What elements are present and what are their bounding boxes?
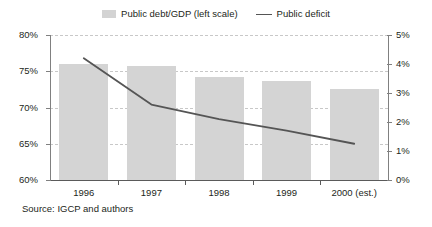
gridline	[50, 35, 388, 36]
x-axis-tick-label: 1996	[73, 188, 94, 198]
y-axis-right-tick-label: 3%	[396, 88, 410, 98]
y-axis-left-tick	[46, 108, 51, 109]
y-axis-left-tick-label: 80%	[19, 30, 44, 40]
x-axis-tick-label: 1999	[276, 188, 297, 198]
y-axis-right-line	[388, 35, 389, 181]
y-axis-right-tick-label: 0%	[396, 175, 410, 185]
legend-label-public-deficit: Public deficit	[277, 9, 330, 19]
x-axis-tick	[185, 180, 186, 185]
y-axis-left-tick	[46, 144, 51, 145]
y-axis-right-tick	[387, 151, 392, 152]
x-axis-line	[50, 180, 389, 181]
y-axis-right-tick-label: 1%	[396, 146, 410, 156]
y-axis-left-tick-label: 70%	[19, 103, 44, 113]
bar	[262, 81, 311, 180]
bar-swatch-icon	[102, 10, 116, 18]
x-axis-tick	[320, 180, 321, 185]
source-note: Source: IGCP and authors	[22, 204, 133, 214]
y-axis-right-tick	[387, 180, 392, 181]
x-axis-tick-label: 2000 (est.)	[331, 188, 376, 198]
y-axis-left-tick-label: 75%	[19, 66, 44, 76]
y-axis-right-tick	[387, 64, 392, 65]
chart-legend: Public debt/GDP (left scale) Public defi…	[0, 6, 432, 22]
bar	[195, 77, 244, 180]
legend-label-public-debt: Public debt/GDP (left scale)	[121, 9, 238, 19]
legend-item-public-deficit: Public deficit	[256, 9, 330, 19]
chart-container: Public debt/GDP (left scale) Public defi…	[0, 0, 432, 227]
y-axis-right-tick-label: 4%	[396, 59, 410, 69]
x-axis-tick	[118, 180, 119, 185]
y-axis-left-tick-label: 60%	[19, 175, 44, 185]
y-axis-left-tick	[46, 71, 51, 72]
plot-area	[50, 35, 388, 180]
legend-item-public-debt: Public debt/GDP (left scale)	[102, 9, 238, 19]
y-axis-right-tick	[387, 122, 392, 123]
y-axis-left-tick	[46, 35, 51, 36]
line-swatch-icon	[256, 14, 272, 15]
x-axis-tick-label: 1997	[141, 188, 162, 198]
y-axis-left-tick	[46, 180, 51, 181]
bar	[127, 66, 176, 180]
x-axis-tick	[253, 180, 254, 185]
bar	[330, 89, 379, 180]
bar	[59, 64, 108, 180]
y-axis-right-tick	[387, 35, 392, 36]
y-axis-left-tick-label: 65%	[19, 139, 44, 149]
y-axis-right-tick	[387, 93, 392, 94]
x-axis-tick-label: 1998	[208, 188, 229, 198]
y-axis-right-tick-label: 5%	[396, 30, 410, 40]
y-axis-right-tick-label: 2%	[396, 117, 410, 127]
